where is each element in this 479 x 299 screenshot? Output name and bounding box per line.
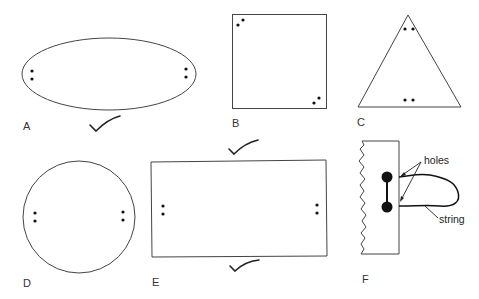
- hole-dot: [161, 212, 164, 215]
- panel-d: D: [23, 161, 135, 289]
- circle-shape: [23, 161, 135, 273]
- string-loop: [399, 174, 459, 206]
- hole-dot: [121, 210, 124, 213]
- hole-dot: [315, 203, 318, 206]
- panel-a: A: [22, 38, 196, 132]
- hole-dot: [403, 98, 406, 101]
- panel-label-b: B: [232, 117, 239, 129]
- panel-label-d: D: [23, 277, 31, 289]
- hole-dot: [30, 77, 33, 80]
- panel-label-e: E: [152, 276, 159, 288]
- panel-f: holes string F: [359, 141, 465, 285]
- checkmark-icon-top: [229, 140, 258, 154]
- annotation-string: string: [439, 213, 465, 225]
- hole-dot: [121, 218, 124, 221]
- triangle-shape: [358, 15, 461, 107]
- panel-label-f: F: [362, 273, 369, 285]
- panel-label-c: C: [357, 116, 365, 128]
- hole-dot: [403, 27, 406, 30]
- hole-dot: [411, 98, 414, 101]
- hole-dot: [161, 204, 164, 207]
- hole-dot: [33, 211, 36, 214]
- shapes-diagram: A B C D E: [0, 0, 479, 299]
- torn-card-shape: [359, 141, 399, 254]
- hole-dot: [312, 101, 315, 104]
- ellipse-shape: [22, 38, 196, 110]
- rectangle-shape: [151, 160, 327, 257]
- panel-b: B: [232, 15, 327, 130]
- panel-label-a: A: [23, 120, 31, 132]
- hole-dot: [317, 96, 320, 99]
- arrow-head-icon: [400, 196, 404, 202]
- leader-line: [425, 206, 438, 218]
- hole-dot: [236, 23, 239, 26]
- annotation-holes: holes: [424, 154, 449, 166]
- hole-dot: [184, 75, 187, 78]
- panel-c: C: [357, 15, 461, 128]
- hole-dot: [184, 67, 187, 70]
- hole-dot: [411, 27, 414, 30]
- checkmark-icon: [90, 116, 120, 131]
- checkmark-icon-bottom: [230, 260, 259, 271]
- hole-dot: [315, 211, 318, 214]
- hole-dot: [30, 69, 33, 72]
- hole-dot: [241, 18, 244, 21]
- arrow-line: [401, 162, 421, 200]
- hole-dot: [33, 219, 36, 222]
- square-shape: [233, 15, 327, 109]
- panel-e: E: [151, 140, 327, 288]
